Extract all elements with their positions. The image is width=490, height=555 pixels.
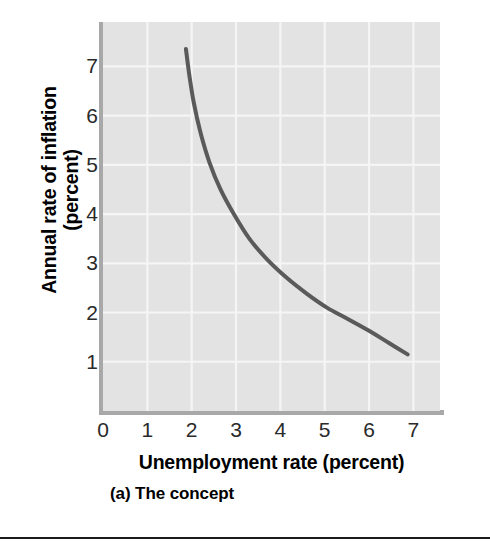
- vertical-gridlines: [147, 22, 413, 411]
- x-tick-label: 3: [221, 419, 251, 440]
- horizontal-gridlines: [103, 66, 440, 361]
- x-tick-label: 1: [132, 419, 162, 440]
- phillips-curve-figure: Annual rate of inflation (percent) 12345…: [0, 0, 490, 555]
- figure-caption: (a) The concept: [110, 484, 234, 504]
- y-tick-label: 2: [72, 302, 98, 323]
- x-tick-label: 2: [177, 419, 207, 440]
- y-tick-label: 1: [72, 351, 98, 372]
- phillips-curve-line: [186, 49, 408, 354]
- x-tick-label: 4: [265, 419, 295, 440]
- y-tick-label: 7: [72, 55, 98, 76]
- y-axis-title-line-1: Annual rate of inflation: [38, 86, 60, 294]
- x-tick-label: 7: [398, 419, 428, 440]
- y-axis-tick-labels: 1234567: [70, 0, 98, 555]
- x-tick-label: 5: [310, 419, 340, 440]
- plot-svg: [103, 22, 440, 411]
- y-tick-label: 3: [72, 252, 98, 273]
- y-tick-label: 6: [72, 105, 98, 126]
- y-tick-label: 4: [72, 203, 98, 224]
- x-axis-tick-labels: 01234567: [0, 419, 490, 447]
- bottom-divider: [0, 537, 490, 539]
- x-tick-label: 6: [354, 419, 384, 440]
- plot-area: [103, 22, 440, 411]
- x-axis-title: Unemployment rate (percent): [103, 451, 440, 474]
- x-tick-label: 0: [88, 419, 118, 440]
- y-tick-label: 5: [72, 154, 98, 175]
